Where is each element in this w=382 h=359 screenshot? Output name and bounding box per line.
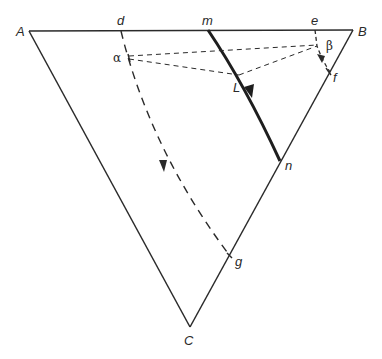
- label-l: L: [233, 80, 240, 95]
- label-c: C: [184, 333, 194, 348]
- ternary-diagram: A B C d m e α β L f n g: [0, 0, 382, 359]
- curve-d-g: [121, 31, 230, 256]
- edge-bc: [190, 30, 353, 327]
- curve-m-n: [208, 30, 280, 161]
- edge-ab: [29, 30, 353, 31]
- tick-alpha: [128, 54, 130, 62]
- label-g: g: [235, 254, 243, 269]
- arrow-d-g-icon: [159, 160, 167, 172]
- edge-ac: [29, 31, 190, 327]
- label-d: d: [117, 13, 125, 28]
- label-f: f: [333, 70, 338, 85]
- triangle-outline: [29, 30, 353, 327]
- label-b: B: [358, 24, 367, 39]
- label-n: n: [285, 158, 292, 173]
- label-a: A: [15, 24, 25, 39]
- tie-alpha-l: [129, 59, 239, 75]
- arrow-e-f-icon: [317, 54, 325, 63]
- label-e: e: [311, 13, 318, 28]
- label-beta: β: [326, 39, 333, 53]
- tie-l-beta: [239, 46, 317, 75]
- label-alpha: α: [113, 51, 121, 65]
- label-m: m: [202, 13, 213, 28]
